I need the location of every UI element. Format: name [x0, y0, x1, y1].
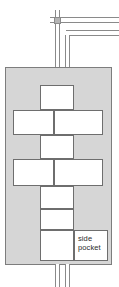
pipe-top-horizontal-lower-icon — [66, 30, 119, 36]
cell-row1-right — [54, 110, 103, 135]
cell-lower-center-1 — [40, 186, 74, 209]
cell-lower-center-2 — [40, 209, 74, 230]
vessel-schematic-diagram: side pocket — [0, 0, 119, 287]
pipe-top-vertical-right-icon — [65, 35, 70, 68]
cell-row2-left — [13, 159, 54, 186]
pipe-bottom-vertical-left-icon — [55, 264, 60, 287]
pipe-top-vertical-left-icon — [55, 22, 60, 68]
cell-top-center — [40, 85, 74, 110]
pipe-junction-icon — [54, 17, 61, 24]
pipe-bottom-vertical-right-icon — [65, 264, 70, 287]
cell-bottom-center — [40, 230, 74, 261]
cell-side-pocket: side pocket — [74, 230, 108, 261]
cell-row1-left — [13, 110, 54, 135]
cell-row2-right — [54, 159, 103, 186]
cell-mid-center — [40, 135, 74, 159]
